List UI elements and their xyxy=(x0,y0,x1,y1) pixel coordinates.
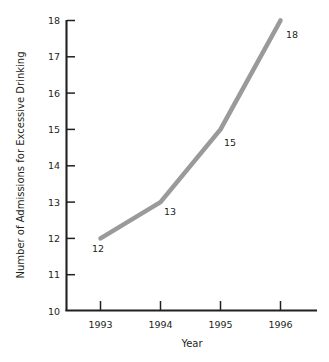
data-label-1995: 15 xyxy=(224,137,236,148)
data-label-1996: 18 xyxy=(286,29,298,40)
y-tick-label-14: 14 xyxy=(48,160,60,171)
data-label-1994: 13 xyxy=(164,206,176,217)
data-point-labels: 12 13 15 18 xyxy=(92,29,298,254)
x-tick-label-1996: 1996 xyxy=(268,319,292,330)
x-tick-label-1993: 1993 xyxy=(88,319,112,330)
data-label-1993: 12 xyxy=(92,243,104,254)
y-axis-ticks xyxy=(67,21,75,275)
y-tick-label-10: 10 xyxy=(48,306,60,317)
figure-container: 18 17 16 15 14 13 12 11 10 1993 1994 199… xyxy=(0,0,329,362)
y-axis-tick-labels: 18 17 16 15 14 13 12 11 10 xyxy=(48,15,60,317)
x-tick-label-1995: 1995 xyxy=(208,319,232,330)
x-axis-ticks xyxy=(101,301,281,310)
x-axis-title: Year xyxy=(180,338,203,349)
x-axis-tick-labels: 1993 1994 1995 1996 xyxy=(88,319,292,330)
y-axis-title: Number of Admissions for Excessive Drink… xyxy=(15,51,26,278)
y-tick-label-18: 18 xyxy=(48,15,60,26)
figure-caption xyxy=(6,353,326,362)
y-tick-label-16: 16 xyxy=(48,88,60,99)
line-chart: 18 17 16 15 14 13 12 11 10 1993 1994 199… xyxy=(0,0,329,362)
y-tick-label-11: 11 xyxy=(48,269,60,280)
y-tick-label-17: 17 xyxy=(48,51,60,62)
y-tick-label-12: 12 xyxy=(48,233,60,244)
y-tick-label-13: 13 xyxy=(48,197,60,208)
data-line-admissions xyxy=(101,21,281,239)
y-tick-label-15: 15 xyxy=(48,124,60,135)
x-tick-label-1994: 1994 xyxy=(148,319,172,330)
